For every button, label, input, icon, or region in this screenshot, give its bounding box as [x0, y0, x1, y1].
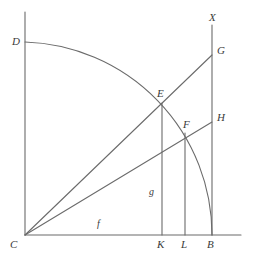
- point-label-L: L: [181, 239, 187, 250]
- segment-label-g: g: [149, 187, 154, 197]
- point-label-E: E: [157, 88, 164, 99]
- figure-canvas: [0, 0, 257, 260]
- point-label-G: G: [217, 45, 225, 56]
- geometry-figure: D X G E H F C K L B g f: [0, 0, 257, 260]
- point-label-K: K: [157, 239, 164, 250]
- ray-C-to-H: [25, 122, 212, 235]
- point-label-F: F: [183, 119, 190, 130]
- segment-label-f: f: [97, 219, 100, 229]
- ray-C-to-G: [25, 55, 212, 235]
- point-label-D: D: [12, 36, 20, 47]
- point-label-B: B: [207, 239, 214, 250]
- point-label-C: C: [10, 239, 17, 250]
- point-label-H: H: [217, 112, 225, 123]
- point-label-X: X: [209, 12, 216, 23]
